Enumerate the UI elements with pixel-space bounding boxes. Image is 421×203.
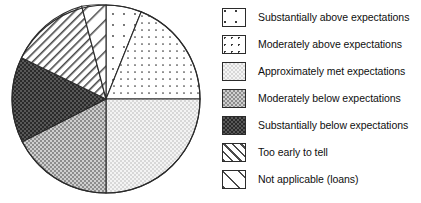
- legend-swatch-dots-sparse-icon: [222, 8, 246, 27]
- legend-label: Approximately met expectations: [258, 66, 405, 77]
- legend-item-moderately-above[interactable]: Moderately above expectations: [222, 33, 402, 55]
- legend-item-substantially-below[interactable]: Substantially below expectations: [222, 114, 408, 136]
- legend-label: Substantially above expectations: [258, 12, 409, 23]
- pie-slices: [12, 5, 200, 193]
- chart-figure: Substantially above expectations Moderat…: [0, 0, 421, 203]
- legend-item-not-applicable[interactable]: Not applicable (loans): [222, 168, 358, 190]
- legend-label: Not applicable (loans): [258, 174, 358, 185]
- legend-label: Moderately above expectations: [258, 39, 402, 50]
- legend-swatch-stipple-medium-icon: [222, 89, 246, 108]
- pie-chart: [0, 0, 216, 203]
- legend-swatch-stipple-dark-icon: [222, 116, 246, 135]
- legend-label: Substantially below expectations: [258, 120, 408, 131]
- pie-chart-svg: [0, 0, 216, 203]
- legend-swatch-dots-medium-icon: [222, 35, 246, 54]
- legend-label: Moderately below expectations: [258, 93, 401, 104]
- chart-legend: Substantially above expectations Moderat…: [216, 0, 421, 203]
- legend-swatch-hatch-dense-icon: [222, 143, 246, 162]
- legend-item-substantially-above[interactable]: Substantially above expectations: [222, 6, 409, 28]
- legend-swatch-stipple-light-icon: [222, 62, 246, 81]
- legend-item-too-early-to-tell[interactable]: Too early to tell: [222, 141, 328, 163]
- legend-item-approximately-met[interactable]: Approximately met expectations: [222, 60, 405, 82]
- legend-label: Too early to tell: [258, 147, 328, 158]
- legend-item-moderately-below[interactable]: Moderately below expectations: [222, 87, 401, 109]
- legend-swatch-hatch-sparse-icon: [222, 170, 246, 189]
- pie-slice-approximately-met[interactable]: [106, 99, 200, 193]
